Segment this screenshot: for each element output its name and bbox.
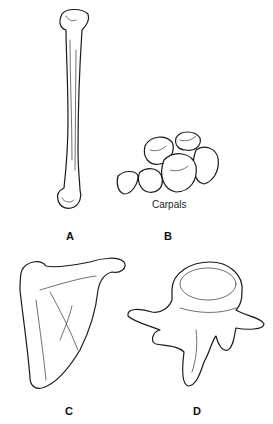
panel-label-a: A	[66, 230, 74, 242]
panel-label-c: C	[65, 405, 73, 417]
vertebra-drawing	[128, 262, 264, 386]
panel-label-d: D	[193, 405, 201, 417]
carpals-caption: Carpals	[152, 199, 186, 210]
bone-drawings	[0, 0, 273, 424]
panel-label-b: B	[164, 230, 172, 242]
bone-figure: A Carpals B C D	[0, 0, 273, 424]
scapula-drawing	[20, 258, 125, 388]
carpals-drawing	[117, 132, 218, 194]
long-bone-drawing	[57, 10, 88, 209]
